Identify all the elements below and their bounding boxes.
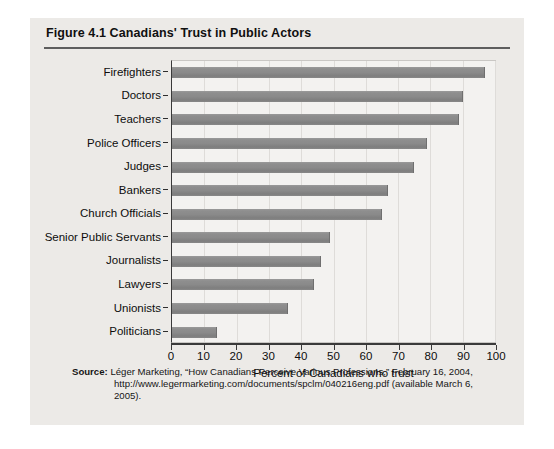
- bar-row: [172, 226, 495, 250]
- source-line-3: 2005).: [72, 390, 527, 402]
- x-axis-tick-label: 0: [168, 350, 174, 362]
- x-axis-tick-label: 10: [197, 350, 210, 362]
- bar-row: [172, 273, 495, 297]
- x-axis-tick-label: 80: [425, 350, 438, 362]
- x-axis-tick-label: 30: [262, 350, 275, 362]
- y-axis-tick: [163, 95, 168, 96]
- y-axis-tick: [163, 307, 168, 308]
- bar-row: [172, 108, 495, 132]
- bar: [172, 256, 321, 267]
- bar-row: [172, 250, 495, 274]
- source-note: Source: Léger Marketing, “How Canadians …: [72, 366, 527, 403]
- bar-row: [172, 179, 495, 203]
- x-axis-tick-label: 40: [295, 350, 308, 362]
- x-axis-tick-label: 70: [392, 350, 405, 362]
- x-axis-tick-label: 20: [230, 350, 243, 362]
- y-axis-tick: [163, 166, 168, 167]
- y-axis-label: Lawyers: [44, 272, 168, 296]
- bar: [172, 232, 330, 243]
- bar-row: [172, 85, 495, 109]
- y-axis-label: Doctors: [44, 84, 168, 108]
- y-axis-tick: [163, 189, 168, 190]
- y-axis-tick: [163, 118, 168, 119]
- bar: [172, 67, 485, 78]
- bar-row: [172, 297, 495, 321]
- y-axis-tick: [163, 142, 168, 143]
- figure-title: Figure 4.1 Canadians' Trust in Public Ac…: [46, 26, 311, 40]
- y-axis-tick: [163, 236, 168, 237]
- y-axis-labels: FirefightersDoctorsTeachersPolice Office…: [44, 60, 168, 343]
- y-axis-label: Church Officials: [44, 201, 168, 225]
- x-axis-tick-label: 60: [360, 350, 373, 362]
- y-axis-label: Teachers: [44, 107, 168, 131]
- y-axis-tick: [163, 283, 168, 284]
- y-axis-label: Unionists: [44, 296, 168, 320]
- bar-row: [172, 132, 495, 156]
- gridline: [495, 61, 496, 342]
- x-axis-tick-label: 100: [486, 350, 505, 362]
- y-axis-tick: [163, 260, 168, 261]
- bar: [172, 138, 427, 149]
- y-axis-tick: [163, 213, 168, 214]
- bar: [172, 327, 217, 338]
- bar: [172, 91, 463, 102]
- plot-area: [171, 60, 496, 343]
- title-divider: [44, 47, 510, 49]
- x-axis-tick-labels: 0102030405060708090100: [171, 350, 496, 366]
- figure-card: Figure 4.1 Canadians' Trust in Public Ac…: [30, 18, 524, 425]
- y-axis-label: Firefighters: [44, 60, 168, 84]
- bar-row: [172, 61, 495, 85]
- y-axis-label: Police Officers: [44, 131, 168, 155]
- bar-row: [172, 155, 495, 179]
- bar-row: [172, 320, 495, 344]
- y-axis-tick: [163, 71, 168, 72]
- source-label: Source:: [72, 366, 108, 377]
- y-axis-label: Politicians: [44, 319, 168, 343]
- source-line-1: Léger Marketing, “How Canadians Perceive…: [110, 366, 472, 377]
- x-axis-tick-label: 90: [457, 350, 470, 362]
- bar-rows: [172, 61, 495, 342]
- y-axis-label: Journalists: [44, 249, 168, 273]
- bar-chart: FirefightersDoctorsTeachersPolice Office…: [44, 56, 510, 366]
- bar: [172, 303, 288, 314]
- bar: [172, 279, 314, 290]
- y-axis-label: Senior Public Servants: [44, 225, 168, 249]
- bar: [172, 209, 382, 220]
- source-line-2: http://www.legermarketing.com/documents/…: [72, 378, 527, 390]
- y-axis-label: Judges: [44, 154, 168, 178]
- bar: [172, 162, 414, 173]
- bar: [172, 114, 459, 125]
- y-axis-label: Bankers: [44, 178, 168, 202]
- bar-row: [172, 202, 495, 226]
- x-axis-tick-label: 50: [327, 350, 340, 362]
- y-axis-tick: [163, 331, 168, 332]
- bar: [172, 185, 388, 196]
